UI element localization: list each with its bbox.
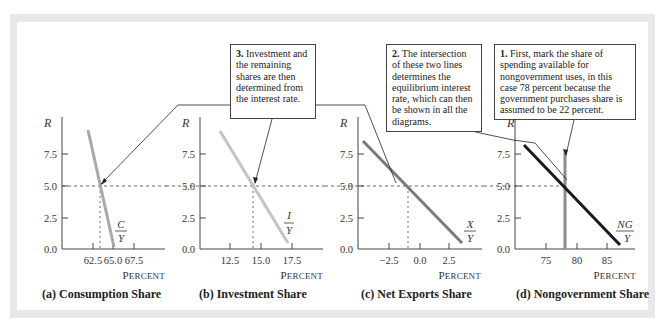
x-tick: 67.5	[125, 255, 143, 266]
annotation-text: The intersection of these two lines dete…	[392, 48, 473, 127]
y-tick: 5.0	[182, 181, 195, 192]
x-axis-label: PERCENT	[122, 269, 165, 281]
investment-share-curve	[220, 131, 288, 243]
panel-caption: (b) Investment Share	[199, 287, 307, 301]
curve-label-numerator: X	[466, 218, 475, 230]
y-tick: 7.5	[340, 149, 353, 160]
x-axis-label: PERCENT	[593, 269, 636, 281]
panel-consumption: R 7.5 5.0 2.5 0.0 62.5 65.0 67.5 C Y PER…	[42, 116, 167, 301]
y-axis-label: R	[181, 116, 190, 130]
curve-label-numerator: I	[286, 209, 292, 221]
net-exports-share-curve	[363, 141, 462, 243]
y-tick: 7.5	[182, 149, 195, 160]
curve-label-numerator: NG	[616, 218, 632, 230]
panel-caption: (a) Consumption Share	[42, 287, 162, 301]
y-tick: 5.0	[44, 181, 57, 192]
x-tick: 15.0	[252, 255, 270, 266]
curve-label-numerator: C	[117, 218, 125, 230]
panel-nongovernment: R 7.5 5.0 2.5 0.0 75 80 85 NG Y PERCENT …	[484, 116, 650, 301]
panel-investment: R 7.5 5.0 2.5 0.0 12.5 15.0 17.5 I Y PER…	[166, 116, 325, 301]
curve-label-denominator: Y	[286, 224, 294, 236]
x-tick: 85	[602, 255, 613, 266]
panel-caption: (d) Nongovernment Share	[516, 287, 650, 301]
y-tick: 7.5	[44, 149, 57, 160]
panel-net-exports: R 7.5 5.0 2.5 0.0 −2.5 0.0 2.5 X Y PERCE…	[325, 116, 484, 301]
y-tick: 0.0	[44, 244, 57, 255]
curve-label-denominator: Y	[467, 232, 475, 244]
x-tick: 75	[541, 255, 552, 266]
x-axis-label: PERCENT	[280, 269, 323, 281]
annotation-step-2: 2. The intersection of these two lines d…	[386, 44, 482, 132]
y-tick: 2.5	[497, 213, 510, 224]
y-tick: 0.0	[497, 244, 510, 255]
consumption-share-curve	[88, 130, 114, 247]
nongovernment-share-curve	[524, 145, 620, 245]
y-axis-label: R	[43, 116, 52, 130]
y-tick: 2.5	[340, 213, 353, 224]
x-tick: 2.5	[442, 255, 455, 266]
annotation-step-3: 3. Investment and the remaining shares a…	[230, 44, 316, 119]
annotation-text: First, mark the share of spending availa…	[500, 48, 622, 115]
x-tick: 65.0	[104, 255, 122, 266]
panel-caption: (c) Net Exports Share	[361, 287, 472, 301]
x-tick: 80	[572, 255, 583, 266]
x-tick: 0.0	[413, 255, 426, 266]
curve-label-denominator: Y	[624, 232, 632, 244]
x-tick: −2.5	[379, 255, 398, 266]
y-tick: 2.5	[182, 213, 195, 224]
y-tick: 5.0	[340, 181, 353, 192]
curve-label-denominator: Y	[118, 232, 126, 244]
x-tick: 62.5	[84, 255, 102, 266]
annotation-step-1: 1. First, mark the share of spending ava…	[494, 44, 636, 120]
x-tick: 17.5	[283, 255, 301, 266]
y-tick: 2.5	[44, 213, 57, 224]
x-tick: 12.5	[221, 255, 239, 266]
y-tick: 0.0	[340, 244, 353, 255]
y-tick: 0.0	[182, 244, 195, 255]
y-axis-label: R	[339, 116, 348, 130]
y-tick: 5.0	[497, 181, 510, 192]
annotation-text: Investment and the remaining shares are …	[236, 48, 307, 104]
y-tick: 7.5	[497, 149, 510, 160]
x-axis-label: PERCENT	[438, 269, 481, 281]
